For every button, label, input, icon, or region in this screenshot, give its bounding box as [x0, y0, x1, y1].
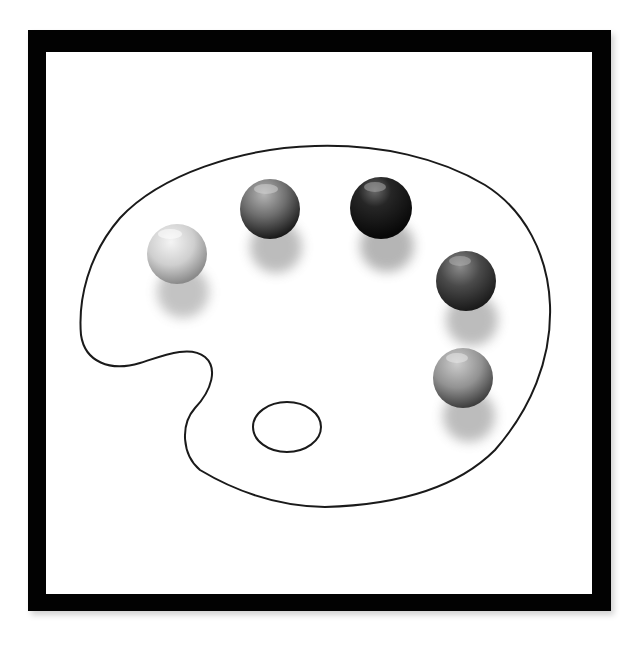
candy-medium-highlight: [254, 184, 278, 194]
candy-shadows: [157, 220, 498, 442]
frame-canvas: [46, 52, 592, 594]
candy-light-highlight: [158, 229, 182, 239]
candy-medium-light-highlight: [446, 353, 468, 363]
candy-dark-highlight: [364, 182, 386, 192]
palette-scene: [46, 52, 592, 594]
picture-frame: [28, 30, 611, 611]
palette-thumb-hole: [253, 402, 321, 452]
candy-dark-medium-highlight: [449, 256, 471, 266]
